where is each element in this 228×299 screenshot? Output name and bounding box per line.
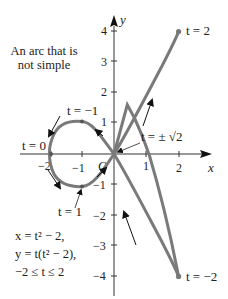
y-tick-4: 4 (101, 24, 107, 38)
y-tick-neg4: −4 (93, 269, 106, 283)
point-t-0 (49, 152, 53, 156)
point-t-neg1 (80, 119, 84, 123)
figure-title-line1: An arc that is (11, 44, 78, 58)
parametric-curve-figure: −2 −1 1 2 x 4 3 2 1 −1 −2 −3 −4 y O (0, 0, 228, 299)
equation-y: y = t(t² − 2), (15, 247, 76, 261)
direction-arrow-icon (124, 212, 136, 245)
point-t-1 (80, 185, 84, 189)
label-t-sqrt2: t = ± √2 (141, 129, 182, 144)
x-tick-1: 1 (143, 159, 149, 173)
y-axis-label: y (118, 12, 126, 27)
equation-x: x = t² − 2, (15, 229, 64, 243)
label-t-neg1: t = −1 (67, 103, 98, 118)
label-t-1: t = 1 (58, 204, 82, 219)
x-tick-neg1: −1 (72, 161, 85, 175)
x-tick-2: 2 (176, 161, 182, 175)
y-axis-arrow-icon (110, 15, 118, 27)
y-tick-1: 1 (101, 115, 107, 129)
point-t-2 (176, 29, 181, 34)
point-t-neg2 (176, 274, 181, 279)
direction-arrow-icon (143, 100, 152, 126)
equation-t-range: −2 ≤ t ≤ 2 (15, 265, 64, 279)
y-tick-3: 3 (101, 55, 107, 69)
x-axis-label: x (207, 160, 214, 175)
label-t-0: t = 0 (22, 138, 46, 153)
label-t-2: t = 2 (186, 23, 210, 38)
figure-title-line2: not simple (18, 58, 71, 72)
y-tick-neg3: −3 (93, 239, 106, 253)
y-tick-2: 2 (101, 85, 107, 99)
y-tick-neg2: −2 (93, 209, 106, 223)
label-t-neg2: t = −2 (186, 269, 217, 284)
